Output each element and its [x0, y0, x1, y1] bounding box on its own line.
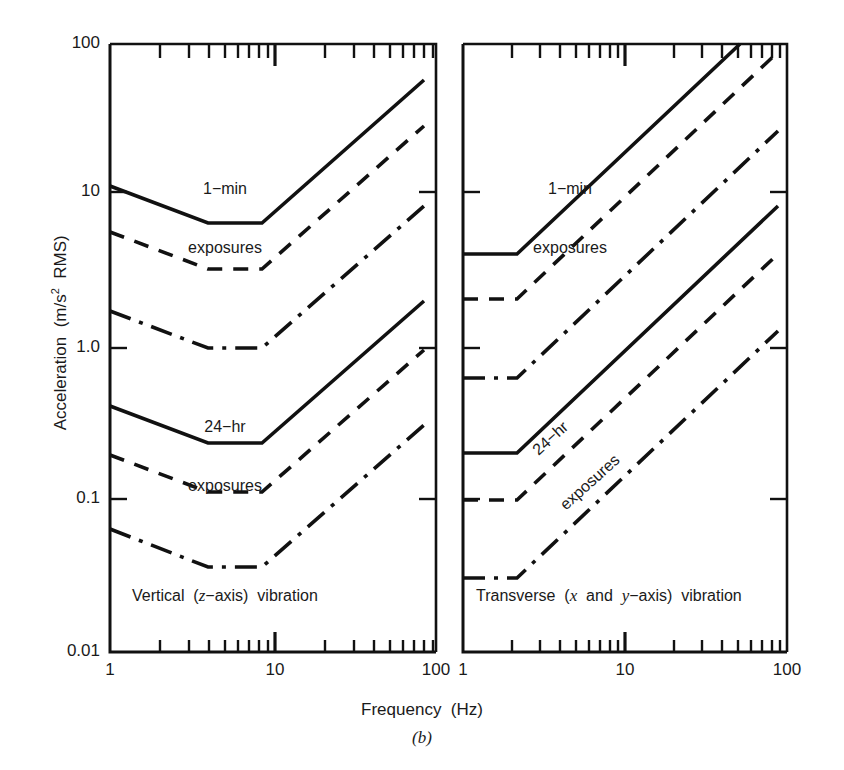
right-note-mid: and — [577, 587, 621, 604]
right-label-1min: 1−min exposures — [505, 140, 635, 296]
left-xtick-label-1: 1 — [90, 660, 130, 680]
left-xtick-label-10: 10 — [255, 660, 295, 680]
panel-letter: (b) — [372, 728, 472, 748]
right-note-prefix: Transverse ( — [476, 587, 570, 604]
ytick-label-100: 100 — [40, 33, 100, 53]
right-label-1min-line1: 1−min — [505, 179, 635, 199]
left-label-1min-line2: exposures — [160, 238, 290, 258]
left-note-suffix: −axis) vibration — [205, 587, 318, 604]
right-xtick-label-100: 100 — [764, 660, 810, 680]
right-xtick-label-1: 1 — [443, 660, 483, 680]
right-label-1min-line2: exposures — [505, 238, 635, 258]
x-axis-label: Frequency (Hz) — [322, 700, 522, 720]
left-panel-xticks — [160, 632, 433, 652]
left-label-24hr: 24−hr exposures — [160, 378, 290, 534]
right-panel-note: Transverse (x and y−axis) vibration — [476, 586, 742, 606]
right-label-24hr-line2: exposures — [538, 434, 640, 529]
left-panel-note: Vertical (z−axis) vibration — [132, 586, 318, 606]
y-axis-label-tail: RMS) — [51, 235, 70, 288]
right-panel-axes — [463, 44, 787, 652]
left-note-prefix: Vertical ( — [132, 587, 199, 604]
left-label-24hr-line1: 24−hr — [160, 417, 290, 437]
vibration-exposure-chart — [0, 0, 844, 770]
left-label-1min: 1−min exposures — [160, 140, 290, 296]
left-label-24hr-line2: exposures — [160, 476, 290, 496]
right-panel-xticks — [512, 632, 780, 652]
right-panel-topticks — [512, 44, 780, 66]
y-axis-label-main: Acceleration (m/s — [51, 294, 70, 430]
right-xtick-label-10: 10 — [605, 660, 645, 680]
right-note-suffix: −axis) vibration — [629, 587, 742, 604]
y-axis-label: Acceleration (m/s2 RMS) — [49, 173, 71, 493]
left-panel-axes — [110, 44, 436, 652]
y-axis-label-sup: 2 — [49, 288, 61, 294]
left-panel-topticks — [160, 44, 433, 66]
ytick-label-0.01: 0.01 — [25, 641, 100, 661]
left-label-1min-line1: 1−min — [160, 179, 290, 199]
figure-container: 100 10 1.0 0.1 0.01 1 10 100 1 10 100 1−… — [0, 0, 844, 770]
